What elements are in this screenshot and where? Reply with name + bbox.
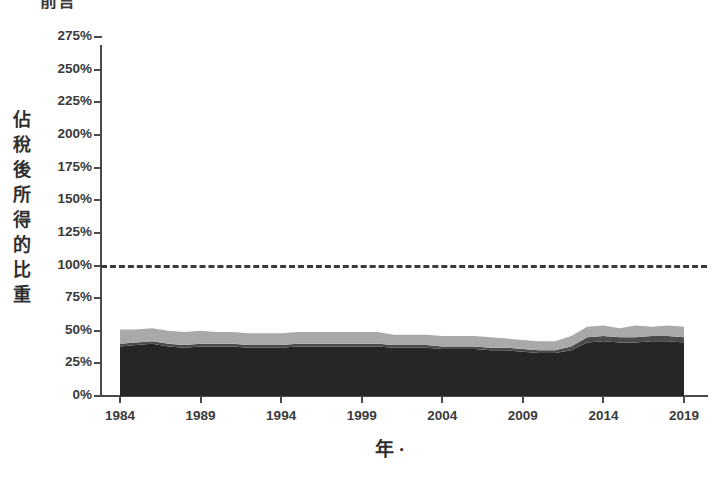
stacked-area-plot: [0, 0, 717, 486]
area-series-1: [120, 341, 684, 396]
reference-line-100pct: [101, 265, 707, 268]
